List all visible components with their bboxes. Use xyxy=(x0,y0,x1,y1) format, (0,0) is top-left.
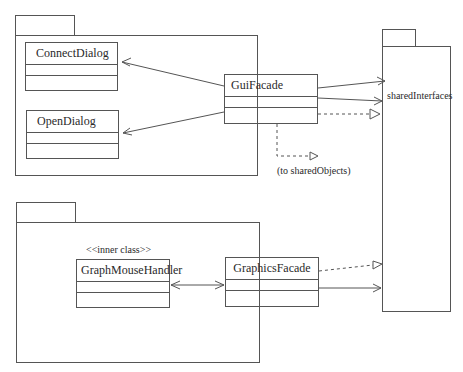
realization-graphics-to-shared xyxy=(319,261,382,271)
realization-gui-to-shared xyxy=(318,109,380,119)
assoc-gui-to-connect xyxy=(122,58,224,86)
relationship-lines xyxy=(0,0,463,372)
assoc-mouse-handler-graphics xyxy=(171,281,224,289)
realization-gui-to-shared-objects xyxy=(277,124,318,160)
assoc-gui-to-shared-2 xyxy=(318,97,382,105)
assoc-gui-to-open xyxy=(123,112,224,135)
assoc-gui-to-shared-1 xyxy=(318,77,385,88)
assoc-graphics-to-shared xyxy=(319,284,381,292)
